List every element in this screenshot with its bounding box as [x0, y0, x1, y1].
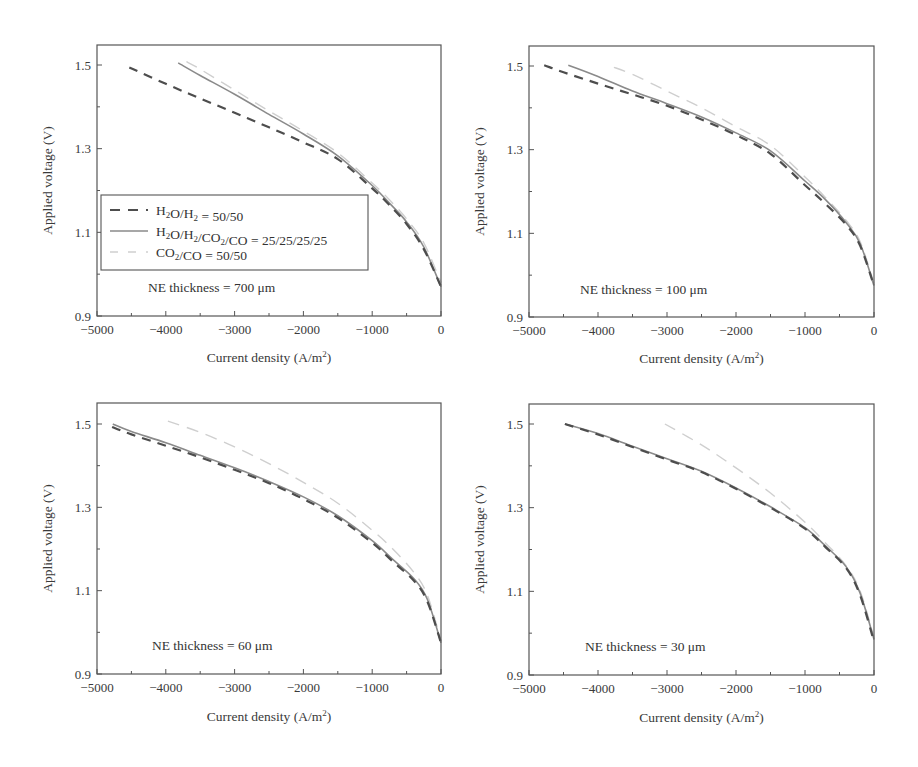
x-tick-label: −2000 — [287, 680, 320, 695]
panel-bottom-right: −5000−4000−3000−2000−10000Current densit… — [472, 404, 877, 725]
x-tick-label: −1000 — [356, 322, 389, 337]
x-tick-label: −1000 — [356, 680, 389, 695]
x-axis-label: Current density (A/m2) — [207, 708, 331, 724]
thickness-annotation: NE thickness = 100 μm — [580, 282, 708, 297]
x-tick-label: −4000 — [149, 322, 182, 337]
panel-bottom-left: −5000−4000−3000−2000−10000Current densit… — [40, 403, 444, 724]
plot-frame — [97, 403, 441, 674]
x-tick-label: −2000 — [287, 322, 320, 337]
y-tick-label: 0.9 — [507, 310, 523, 325]
x-tick-label: 0 — [871, 681, 878, 696]
y-axis-label: Applied voltage (V) — [472, 127, 487, 236]
x-tick-label: 0 — [438, 322, 445, 337]
y-tick-label: 1.5 — [507, 417, 523, 432]
series-line — [168, 421, 441, 641]
x-tick-label: 0 — [871, 323, 878, 338]
legend: H2O/H2 = 50/50H2O/H2/CO2/CO = 25/25/25/2… — [101, 195, 368, 270]
x-tick-label: −3000 — [650, 323, 683, 338]
y-tick-label: 1.1 — [507, 226, 523, 241]
panel-top-left: −5000−4000−3000−2000−10000Current densit… — [40, 45, 444, 365]
x-tick-label: −5000 — [512, 323, 545, 338]
y-tick-label: 1.3 — [507, 142, 523, 157]
x-tick-label: −4000 — [149, 680, 182, 695]
figure: −5000−4000−3000−2000−10000Current densit… — [0, 0, 918, 767]
y-tick-label: 1.5 — [507, 59, 523, 74]
series-group — [112, 421, 441, 643]
y-tick-label: 0.9 — [75, 667, 91, 682]
y-axis: 0.91.11.31.5Applied voltage (V) — [472, 417, 534, 683]
x-tick-label: −1000 — [788, 323, 821, 338]
plot-frame — [97, 45, 441, 316]
y-axis: 0.91.11.31.5Applied voltage (V) — [40, 417, 102, 682]
plot-frame — [529, 46, 874, 317]
x-axis-label: Current density (A/m2) — [207, 349, 331, 365]
y-tick-label: 1.1 — [507, 584, 523, 599]
x-axis: −5000−4000−3000−2000−10000Current densit… — [80, 311, 444, 365]
y-tick-label: 1.1 — [75, 225, 91, 240]
y-tick-label: 1.3 — [75, 500, 91, 515]
y-axis-label: Applied voltage (V) — [40, 484, 55, 593]
x-tick-label: −5000 — [80, 680, 113, 695]
x-axis-label: Current density (A/m2) — [639, 350, 763, 366]
thickness-annotation: NE thickness = 700 μm — [148, 280, 276, 295]
y-axis: 0.91.11.31.5Applied voltage (V) — [40, 58, 102, 324]
y-tick-label: 1.5 — [75, 417, 91, 432]
series-line — [113, 424, 441, 643]
y-tick-label: 0.9 — [507, 668, 523, 683]
x-tick-label: −5000 — [80, 322, 113, 337]
x-tick-label: 0 — [438, 680, 445, 695]
x-axis: −5000−4000−3000−2000−10000Current densit… — [512, 670, 877, 725]
x-axis: −5000−4000−3000−2000−10000Current densit… — [512, 312, 877, 366]
y-axis-label: Applied voltage (V) — [40, 126, 55, 235]
series-line — [112, 427, 441, 643]
x-tick-label: −3000 — [218, 680, 251, 695]
series-line — [665, 424, 874, 637]
series-group — [565, 424, 874, 642]
x-tick-label: −5000 — [512, 681, 545, 696]
x-tick-label: −2000 — [719, 323, 752, 338]
y-tick-label: 1.5 — [75, 58, 91, 73]
y-tick-label: 0.9 — [75, 309, 91, 324]
x-tick-label: −4000 — [581, 323, 614, 338]
x-tick-label: −3000 — [218, 322, 251, 337]
x-axis: −5000−4000−3000−2000−10000Current densit… — [80, 669, 444, 724]
thickness-annotation: NE thickness = 60 μm — [152, 638, 273, 653]
x-tick-label: −4000 — [581, 681, 614, 696]
thickness-annotation: NE thickness = 30 μm — [585, 639, 706, 654]
y-axis-label: Applied voltage (V) — [472, 485, 487, 594]
series-group — [544, 65, 874, 285]
y-tick-label: 1.1 — [75, 583, 91, 598]
series-line — [568, 65, 874, 285]
series-line — [614, 67, 874, 283]
x-tick-label: −3000 — [650, 681, 683, 696]
y-tick-label: 1.3 — [75, 141, 91, 156]
y-axis: 0.91.11.31.5Applied voltage (V) — [472, 59, 534, 325]
series-line — [544, 65, 874, 285]
panel-top-right: −5000−4000−3000−2000−10000Current densit… — [472, 46, 877, 366]
x-axis-label: Current density (A/m2) — [639, 709, 763, 725]
y-tick-label: 1.3 — [507, 500, 523, 515]
x-tick-label: −1000 — [788, 681, 821, 696]
x-tick-label: −2000 — [719, 681, 752, 696]
